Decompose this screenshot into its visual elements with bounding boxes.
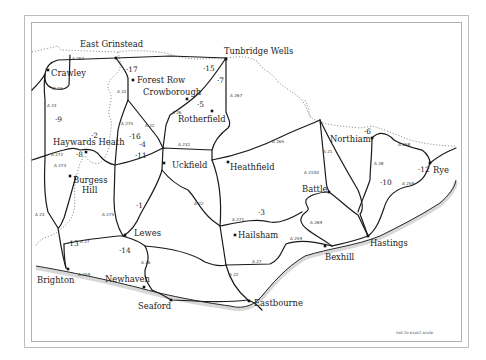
road-label: A 22 (145, 123, 155, 128)
town-label: Rye (433, 165, 449, 175)
town-marker-icon (211, 110, 214, 113)
road-label: A 272 (51, 152, 64, 157)
numbered-point: ·5 (197, 100, 204, 109)
road-label: A 21 (323, 149, 333, 154)
town-marker-icon (85, 151, 88, 154)
numbered-point: ·3 (258, 208, 265, 217)
town-marker-icon (143, 286, 146, 289)
road-label: A 28 (374, 161, 384, 166)
numbered-point: ·2 (91, 131, 98, 140)
road-label: A 259 (78, 272, 91, 277)
town-label: Hastings (370, 238, 408, 248)
town-marker-icon (163, 162, 166, 165)
numbered-point: ·15 (203, 64, 215, 73)
road-label: A 22 (229, 272, 239, 277)
map-canvas: East GrinsteadTunbridge WellsCrawleyFore… (0, 0, 486, 360)
town-marker-icon (324, 245, 327, 248)
road-label: A 273 (54, 163, 67, 168)
numbered-point: ·10 (380, 178, 392, 187)
road-label: A 259 (290, 236, 303, 241)
town-marker-icon (132, 79, 135, 82)
road-label: A 22 (117, 89, 127, 94)
numbered-point: ·4 (139, 140, 146, 149)
road-label: A 26 (172, 110, 182, 115)
road-label: A 26 (141, 260, 151, 265)
road-label: A 27 (252, 259, 262, 264)
road-label: A 269 (310, 220, 323, 225)
numbered-point: ·13 (67, 239, 79, 248)
town-label: Crowborough (143, 87, 202, 97)
road-label: A 23 (47, 103, 57, 108)
numbered-point: ·11 (135, 151, 147, 160)
town-marker-icon (371, 137, 374, 140)
road-label: A 22 (194, 201, 204, 206)
town-marker-icon (248, 300, 251, 303)
town-label: Lewes (134, 228, 161, 238)
road-label: A 275 (121, 121, 134, 126)
town-label: Battle (302, 184, 328, 194)
town-marker-icon (115, 57, 118, 60)
road-label: A 2100 (304, 170, 319, 175)
town-labels: East GrinsteadTunbridge WellsCrawleyFore… (37, 39, 449, 311)
road-label: A 267 (230, 93, 243, 98)
town-label: Tunbridge Wells (224, 46, 293, 56)
road-label: A 264 (72, 56, 85, 61)
town-label: Rotherfield (178, 114, 226, 124)
town-label: Hailsham (238, 230, 278, 240)
town-marker-icon (69, 175, 72, 178)
town-marker-icon (328, 191, 331, 194)
numbered-point: ·7 (217, 76, 224, 85)
numbered-point: ·14 (119, 246, 131, 255)
town-label: Newhaven (105, 274, 151, 284)
town-marker-icon (227, 161, 230, 164)
town-marker-icon (67, 268, 70, 271)
town-label: Seaford (138, 301, 172, 311)
town-label: Brighton (37, 275, 75, 285)
town-label: Uckfield (172, 160, 208, 170)
town-marker-icon (186, 98, 189, 101)
numbered-point: ·12 (418, 165, 430, 174)
town-label: Eastbourne (254, 298, 303, 308)
road-label: A 27 (80, 239, 90, 244)
town-marker-icon (234, 234, 237, 237)
town-label: Forest Row (137, 75, 186, 85)
numbered-point: ·8 (76, 150, 83, 159)
town-marker-icon (367, 235, 370, 238)
numbered-point: ·17 (126, 65, 138, 74)
numbered-point: ·9 (55, 115, 62, 124)
county-border-east (305, 100, 310, 118)
numbered-points: ·1·2·3·4·5·6·7·8·9·10·11·12·13·14·15·16·… (55, 64, 430, 255)
road-label: A 265 (272, 139, 285, 144)
town-marker-icon (225, 58, 228, 61)
town-label: Burgess (73, 175, 107, 185)
town-marker-icon (47, 69, 50, 72)
road-label: A 232 (178, 142, 191, 147)
road-label: A 259 (402, 181, 415, 186)
road-label: A 268 (398, 142, 411, 147)
road-label: A 275 (102, 212, 115, 217)
town-label: Heathfield (230, 162, 275, 172)
town-label: Haywards Heath (53, 137, 125, 147)
road-label: A 23 (35, 212, 45, 217)
road-label: M 23 (52, 86, 63, 91)
town-label: Bexhill (325, 252, 355, 262)
numbered-point: ·6 (364, 127, 371, 136)
town-label: Hill (82, 185, 98, 195)
road-label: A 271 (232, 217, 245, 222)
town-label: East Grinstead (80, 39, 144, 49)
town-marker-icon (429, 162, 432, 165)
town-label: Crawley (51, 68, 86, 78)
town-marker-icon (124, 234, 127, 237)
numbered-point: ·1 (136, 201, 143, 210)
scale-note: not to exact scale (396, 330, 433, 335)
numbered-point: ·16 (129, 132, 141, 141)
